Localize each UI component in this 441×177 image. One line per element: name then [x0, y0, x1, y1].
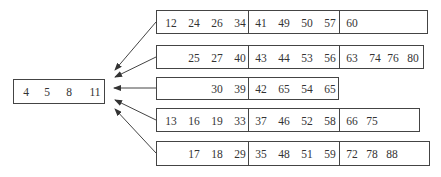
key: 74 — [369, 53, 381, 65]
key: 12 — [165, 18, 177, 30]
key: 60 — [346, 18, 358, 30]
key: 42 — [255, 84, 267, 96]
segment-divider — [339, 46, 340, 68]
key: 52 — [301, 116, 313, 128]
child-node-4: 13 16 19 33 37 46 52 58 66 75 — [156, 108, 420, 132]
key: 27 — [211, 53, 223, 65]
key: 33 — [234, 116, 246, 128]
key: 40 — [234, 53, 246, 65]
child-node-3: 30 39 42 65 54 65 — [156, 77, 339, 100]
root-key: 4 — [23, 87, 29, 99]
key: 16 — [188, 116, 200, 128]
key: 19 — [211, 116, 223, 128]
segment-divider — [339, 109, 340, 131]
key: 54 — [301, 84, 313, 96]
key: 88 — [386, 149, 398, 161]
key: 44 — [278, 53, 290, 65]
key: 66 — [346, 116, 358, 128]
key: 57 — [324, 18, 336, 30]
key: 41 — [255, 18, 267, 30]
child-node-1: 12 24 26 34 41 49 50 57 60 — [156, 10, 428, 34]
key: 17 — [188, 149, 200, 161]
key: 30 — [211, 84, 223, 96]
key: 29 — [234, 149, 246, 161]
segment-divider — [248, 109, 249, 131]
key: 13 — [165, 116, 177, 128]
child-node-2: 25 27 40 43 44 53 56 63 74 76 80 — [156, 45, 424, 69]
key: 65 — [278, 84, 290, 96]
key: 46 — [278, 116, 290, 128]
segment-divider — [248, 46, 249, 68]
edge-child-1-to-root — [115, 22, 156, 70]
key: 50 — [301, 18, 313, 30]
key: 65 — [324, 84, 336, 96]
key: 34 — [234, 18, 246, 30]
key: 18 — [211, 149, 223, 161]
segment-divider — [248, 78, 249, 99]
key: 63 — [346, 53, 358, 65]
segment-divider — [339, 142, 340, 165]
key: 72 — [346, 149, 358, 161]
key: 35 — [255, 149, 267, 161]
key: 59 — [324, 149, 336, 161]
root-key: 8 — [66, 87, 72, 99]
root-key: 11 — [89, 87, 100, 99]
key: 37 — [255, 116, 267, 128]
child-node-5: 17 18 29 35 48 51 59 72 78 88 — [156, 141, 430, 166]
edge-child-2-to-root — [115, 57, 156, 77]
edge-child-5-to-root — [115, 109, 156, 153]
key: 51 — [301, 149, 313, 161]
key: 25 — [188, 53, 200, 65]
segment-divider — [248, 11, 249, 33]
key: 48 — [278, 149, 290, 161]
key: 43 — [255, 53, 267, 65]
key: 49 — [278, 18, 290, 30]
root-node: 4 5 8 11 — [13, 79, 105, 104]
edge-child-4-to-root — [115, 100, 156, 120]
segment-divider — [339, 11, 340, 33]
key: 76 — [387, 53, 399, 65]
key: 80 — [407, 53, 419, 65]
key: 24 — [188, 18, 200, 30]
segment-divider — [248, 142, 249, 165]
key: 39 — [234, 84, 246, 96]
key: 53 — [301, 53, 313, 65]
root-key: 5 — [44, 87, 50, 99]
key: 56 — [324, 53, 336, 65]
key: 26 — [211, 18, 223, 30]
key: 58 — [324, 116, 336, 128]
key: 78 — [366, 149, 378, 161]
key: 75 — [366, 116, 378, 128]
